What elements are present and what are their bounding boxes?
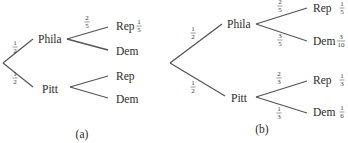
svg-text:1: 1	[191, 25, 195, 33]
edge-phila-dem	[67, 39, 108, 50]
svg-text:5: 5	[340, 8, 344, 16]
prob-root-pitt: 1 2	[191, 79, 196, 95]
leaf-phila-dem: Dem	[313, 35, 335, 47]
leaf-phila-rep: Rep	[313, 2, 332, 15]
svg-text:1: 1	[137, 18, 141, 26]
svg-text:3: 3	[277, 78, 281, 86]
svg-text:3: 3	[340, 80, 344, 88]
joint-phila-rep: 1 5	[137, 18, 142, 34]
svg-text:1: 1	[13, 39, 17, 47]
svg-text:3: 3	[339, 33, 343, 41]
node-phila: Phila	[227, 18, 251, 30]
prob-phila-dem: 3 5	[278, 32, 283, 48]
prob-root-phila: 1 2	[191, 25, 196, 41]
svg-text:2: 2	[13, 78, 17, 86]
svg-text:10: 10	[338, 41, 346, 49]
tree-b: 1 2 1 2 Phila Pitt 2 5 3 5 2 3	[170, 0, 345, 136]
edge-root-phila	[170, 24, 222, 63]
prob-pitt-dem: 1 3	[277, 105, 282, 121]
joint-phila-rep: 1 5	[340, 0, 345, 16]
svg-text:5: 5	[85, 22, 89, 30]
prob-root-pitt: 1 2	[13, 70, 18, 86]
node-pitt: Pitt	[231, 92, 248, 104]
prob-phila-rep: 2 5	[85, 14, 90, 30]
svg-text:2: 2	[277, 70, 281, 78]
edge-root-pitt	[170, 63, 225, 96]
edge-pitt-rep	[256, 81, 307, 97]
svg-text:2: 2	[191, 33, 195, 41]
svg-text:2: 2	[13, 47, 17, 55]
leaf-phila-rep: Rep	[116, 20, 135, 33]
joint-phila-dem: 3 10	[337, 33, 345, 49]
joint-pitt-rep: 1 3	[340, 72, 345, 88]
edge-root-phila	[3, 39, 33, 63]
svg-text:3: 3	[278, 32, 282, 40]
tree-a: 1 2 1 2 Phila Pitt 2 5 Rep 1 5 Dem	[3, 14, 142, 141]
svg-text:2: 2	[85, 14, 89, 22]
node-phila: Phila	[38, 33, 62, 45]
probability-tree-diagrams: 1 2 1 2 Phila Pitt 2 5 Rep 1 5 Dem	[0, 0, 348, 143]
leaf-phila-dem: Dem	[116, 45, 138, 57]
svg-text:1: 1	[340, 104, 344, 112]
edge-root-pitt	[3, 63, 33, 87]
leaf-pitt-rep: Rep	[116, 70, 135, 83]
leaf-pitt-dem: Dem	[116, 93, 138, 105]
svg-text:1: 1	[13, 70, 17, 78]
leaf-pitt-rep: Rep	[313, 74, 332, 87]
edge-pitt-dem	[70, 87, 108, 98]
leaf-pitt-dem: Dem	[313, 106, 335, 118]
svg-text:2: 2	[191, 87, 195, 95]
joint-pitt-dem: 1 6	[340, 104, 345, 120]
caption-a: (a)	[76, 128, 89, 141]
prob-phila-rep: 2 5	[278, 0, 283, 14]
edge-pitt-dem	[256, 97, 307, 113]
svg-text:1: 1	[340, 0, 344, 8]
svg-text:6: 6	[340, 112, 344, 120]
svg-text:5: 5	[137, 26, 141, 34]
edge-pitt-rep	[70, 76, 108, 87]
prob-pitt-rep: 2 3	[277, 70, 282, 86]
node-pitt: Pitt	[42, 83, 59, 95]
svg-text:5: 5	[278, 6, 282, 14]
svg-text:1: 1	[277, 105, 281, 113]
caption-b: (b)	[255, 123, 269, 136]
svg-text:1: 1	[191, 79, 195, 87]
svg-text:5: 5	[278, 40, 282, 48]
svg-text:1: 1	[340, 72, 344, 80]
svg-text:3: 3	[277, 113, 281, 121]
